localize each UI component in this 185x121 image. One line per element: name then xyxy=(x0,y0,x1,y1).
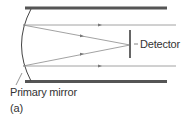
detector xyxy=(129,30,131,58)
panel-label: (a) xyxy=(10,102,23,114)
primary-mirror-label: Primary mirror xyxy=(10,86,77,98)
ray-top-reflected xyxy=(23,25,130,45)
arrow-icon xyxy=(80,34,84,37)
arrow-icon xyxy=(98,65,102,68)
mirror-leader-line xyxy=(16,73,22,85)
primary-mirror xyxy=(22,9,32,81)
ray-bottom-reflected xyxy=(23,45,130,66)
tube-bottom-wall xyxy=(25,80,167,83)
detector-label: Detector xyxy=(140,38,180,50)
arrow-icon xyxy=(98,24,102,27)
tube-top-wall xyxy=(25,7,167,10)
telescope-diagram xyxy=(0,0,185,121)
